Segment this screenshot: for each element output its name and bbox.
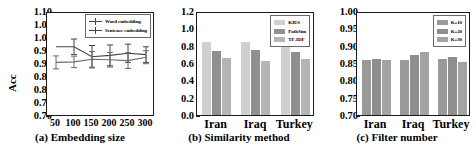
legend-item: K=20: [437, 27, 462, 35]
y-tick-label: 0.70: [324, 111, 358, 122]
legend-color-swatch: [437, 20, 448, 25]
y-tick-label: 0.90: [324, 42, 358, 53]
bar: [400, 60, 409, 115]
bar: [382, 60, 391, 115]
bar: [372, 59, 381, 115]
x-tick-label: 300: [136, 118, 154, 128]
legend-color-swatch: [437, 29, 448, 34]
legend-label: K=10: [451, 20, 462, 25]
legend-color-swatch: [274, 37, 285, 42]
bar: [281, 42, 290, 115]
panel-b-legend: KIESPathSimTF-IDF: [270, 15, 310, 47]
legend-item: TF-IDF: [274, 36, 306, 44]
panel-c-plot-area: K=10K=20K=30: [356, 12, 470, 116]
bar: [202, 42, 211, 115]
bar: [241, 42, 250, 115]
legend-item: PathSim: [274, 27, 306, 35]
legend-label: KIES: [288, 20, 300, 25]
bar: [301, 59, 310, 115]
bar: [448, 57, 457, 115]
y-tick-label: 0.80: [324, 76, 358, 87]
x-tick-label: Iran: [196, 118, 235, 130]
legend-line-marker-icon: [89, 27, 102, 34]
legend-item: Word embedding: [89, 18, 147, 26]
panel-a-caption: (a) Embedding size: [0, 131, 160, 143]
y-tick-label: 1.0: [160, 24, 194, 35]
legend-label: K=30: [451, 37, 462, 42]
legend-label: Word embedding: [105, 19, 141, 24]
y-tick-label: 0.8: [160, 42, 194, 53]
bar: [222, 58, 231, 115]
panel-a-plot-area: Word embeddingSentence embedding: [46, 12, 154, 116]
y-tick-mark: [356, 116, 360, 117]
bar-group: [357, 13, 395, 115]
y-tick-label: 0.75: [324, 94, 358, 105]
panel-b-caption: (b) Similarity method: [160, 131, 318, 143]
y-tick-label: 0.4: [160, 76, 194, 87]
legend-label: K=20: [451, 29, 462, 34]
legend-item: KIES: [274, 19, 306, 27]
panel-a-y-axis-label: Acc: [6, 74, 18, 92]
bar: [438, 59, 447, 115]
x-tick-label: 100: [64, 118, 82, 128]
y-tick-label: 0.95: [324, 24, 358, 35]
x-tick-label: Turkey: [432, 118, 470, 130]
legend-label: PathSim: [288, 29, 306, 34]
y-tick-label: 0.85: [324, 59, 358, 70]
legend-label: TF-IDF: [288, 37, 304, 42]
panel-a-embedding-size: Acc 1.101.051.000.950.900.850.800.750.70…: [0, 0, 160, 150]
y-tick-label: 0.6: [160, 59, 194, 70]
legend-item: K=10: [437, 19, 462, 27]
bar: [458, 62, 467, 115]
panel-c-caption: (c) Filter number: [318, 131, 476, 143]
legend-item: K=30: [437, 36, 462, 44]
bar: [362, 60, 371, 115]
legend-color-swatch: [274, 29, 285, 34]
bar-group: [395, 13, 433, 115]
bar: [410, 55, 419, 115]
panel-c-legend: K=10K=20K=30: [433, 15, 466, 47]
x-tick-label: 200: [100, 118, 118, 128]
y-tick-label: 0.0: [160, 111, 194, 122]
x-tick-label: Iraq: [394, 118, 432, 130]
legend-item: Sentence embedding: [89, 26, 147, 34]
bar: [261, 61, 270, 115]
bar: [420, 52, 429, 115]
bar-group: [197, 13, 236, 115]
panel-b-plot-area: KIESPathSimTF-IDF: [196, 12, 314, 116]
bar: [212, 51, 221, 115]
panel-c-filter-number: 1.000.950.900.850.800.750.70 K=10K=20K=3…: [318, 0, 476, 150]
bar: [291, 52, 300, 115]
y-tick-label: 1.2: [160, 7, 194, 18]
x-tick-label: 50: [46, 118, 64, 128]
x-tick-label: Turkey: [275, 118, 314, 130]
x-tick-label: 150: [82, 118, 100, 128]
x-tick-label: Iraq: [235, 118, 274, 130]
legend-color-swatch: [437, 37, 448, 42]
x-tick-label: Iran: [356, 118, 394, 130]
panel-a-legend: Word embeddingSentence embedding: [85, 14, 151, 38]
x-tick-label: 250: [118, 118, 136, 128]
legend-label: Sentence embedding: [105, 28, 147, 33]
figure-three-panel-charts: Acc 1.101.051.000.950.900.850.800.750.70…: [0, 0, 476, 150]
bar: [251, 50, 260, 115]
y-tick-mark: [196, 116, 200, 117]
panel-b-similarity-method: 1.21.00.80.60.40.20.0 KIESPathSimTF-IDF …: [160, 0, 318, 150]
legend-color-swatch: [274, 20, 285, 25]
y-tick-label: 0.2: [160, 94, 194, 105]
legend-line-marker-icon: [89, 18, 102, 25]
y-tick-label: 1.00: [324, 7, 358, 18]
